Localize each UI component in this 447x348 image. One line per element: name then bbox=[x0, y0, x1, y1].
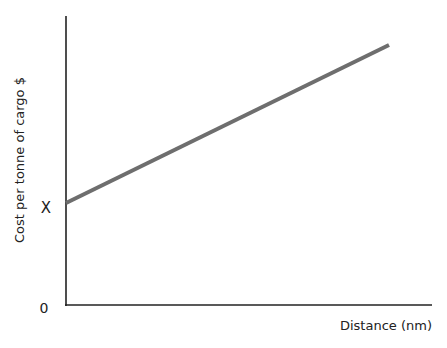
y-tick-x: X bbox=[41, 199, 51, 217]
chart: X 0 Distance (nm) Cost per tonne of carg… bbox=[0, 0, 447, 348]
y-axis-label: Cost per tonne of cargo $ bbox=[12, 77, 27, 243]
x-axis-label: Distance (nm) bbox=[340, 318, 432, 333]
cost-line bbox=[66, 45, 389, 203]
y-tick-zero: 0 bbox=[40, 300, 49, 316]
